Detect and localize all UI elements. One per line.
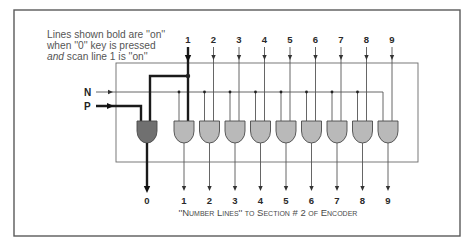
and-gate-1: [174, 121, 194, 143]
number-lines: 0 1 2 3 4 5 6 7 8 9: [144, 143, 391, 206]
and-gate-7: [327, 121, 347, 143]
arrow-down-icon: [288, 55, 292, 60]
annotation-line-3: and scan line 1 is ''on'': [47, 51, 148, 62]
number-line-label-9: 9: [385, 195, 390, 206]
and-gate-5: [276, 121, 296, 143]
junction-dot: [178, 91, 181, 94]
and-gate-4: [251, 121, 271, 143]
number-line-label-2: 2: [207, 195, 212, 206]
scan-lines: [211, 47, 394, 121]
annotation-italic-and: and: [47, 51, 64, 62]
annotation: Lines shown bold are ''on'' when ''0'' k…: [46, 29, 165, 62]
encoder-diagram: Lines shown bold are ''on'' when ''0'' k…: [0, 0, 475, 249]
and-gate-6: [302, 121, 322, 143]
scan-line-label-4: 4: [262, 34, 268, 45]
junction-dot: [280, 91, 283, 94]
arrow-down-icon: [360, 186, 364, 191]
n-line: N: [84, 87, 383, 121]
arrow-down-icon: [262, 55, 266, 60]
arrow-down-icon: [258, 186, 262, 191]
arrow-down-icon: [364, 55, 368, 60]
and-gate-8: [353, 121, 373, 143]
scan-line-label-1: 1: [185, 34, 191, 45]
and-gate-3: [225, 121, 245, 143]
junction-dot: [356, 91, 359, 94]
arrow-down-icon: [335, 186, 339, 191]
arrow-down-icon: [339, 55, 343, 60]
and-gates: [137, 121, 398, 143]
arrow-down-icon: [207, 186, 211, 191]
arrow-down-icon: [390, 55, 394, 60]
arrow-right-icon: [107, 103, 114, 109]
and-gate-9: [378, 121, 398, 143]
arrow-down-icon: [211, 55, 215, 60]
junction-dot: [331, 91, 334, 94]
arrow-right-icon: [108, 90, 113, 94]
p-bus-active: [96, 106, 141, 122]
scan-line-label-8: 8: [364, 34, 369, 45]
scan-line-1-active: [150, 47, 191, 122]
p-line: P: [84, 101, 141, 122]
arrow-down-icon: [284, 186, 288, 191]
arrow-down-icon: [237, 55, 241, 60]
number-line-label-4: 4: [258, 195, 264, 206]
and-gate-0-active: [137, 121, 157, 143]
arrow-down-icon: [313, 55, 317, 60]
number-line-label-7: 7: [334, 195, 339, 206]
p-label: P: [84, 101, 91, 112]
number-line-label-3: 3: [232, 195, 237, 206]
number-line-label-8: 8: [360, 195, 365, 206]
junction-dot: [254, 91, 257, 94]
annotation-line-1: Lines shown bold are ''on'': [47, 29, 165, 40]
arrow-down-icon: [386, 186, 390, 191]
arrow-down-icon: [309, 186, 313, 191]
scan-line-label-5: 5: [287, 34, 293, 45]
junction-dot: [305, 91, 308, 94]
arrow-down-icon: [185, 55, 191, 62]
arrow-down-icon: [182, 186, 186, 191]
scan-line-label-6: 6: [313, 34, 318, 45]
number-line-label-6: 6: [309, 195, 314, 206]
annotation-line-2: when ''0'' key is pressed: [46, 40, 156, 51]
arrow-down-icon: [144, 186, 150, 193]
scan-line-1-tap: [150, 76, 188, 122]
diagram-caption: ''Number Lines'' to Section # 2 of Encod…: [179, 207, 358, 218]
annotation-line-3-rest: scan line 1 is ''on'': [64, 51, 148, 62]
scan-line-labels: 1 2 3 4 5 6 7 8 9: [185, 34, 394, 45]
number-line-label-5: 5: [283, 195, 289, 206]
arrow-down-icon: [233, 186, 237, 191]
scan-line-label-7: 7: [338, 34, 343, 45]
number-line-label-0: 0: [144, 195, 149, 206]
scan-line-label-9: 9: [389, 34, 394, 45]
junction-dot: [203, 91, 206, 94]
junction-dot: [186, 74, 190, 78]
and-gate-2: [200, 121, 220, 143]
junction-dot: [229, 91, 232, 94]
scan-line-label-2: 2: [211, 34, 216, 45]
encoder-section-box: [116, 63, 418, 162]
n-label: N: [84, 87, 91, 98]
number-line-label-1: 1: [181, 195, 187, 206]
scan-line-label-3: 3: [236, 34, 241, 45]
